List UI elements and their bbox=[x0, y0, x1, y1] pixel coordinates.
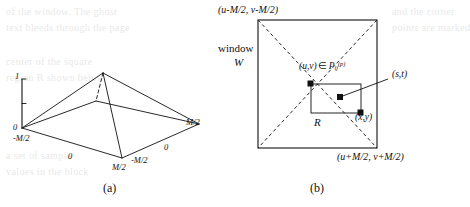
set-symbol-superscript: (p) bbox=[338, 60, 345, 67]
point-label-uv: (u,v)∈Pij(p) bbox=[299, 61, 345, 71]
pyramid-edge-apex-left bbox=[22, 73, 103, 128]
rect-label-R: R bbox=[314, 117, 321, 128]
panel-a-pyramid bbox=[22, 73, 199, 158]
marker-st bbox=[337, 94, 343, 100]
window-label: window bbox=[218, 43, 253, 54]
inner-rectangle-R bbox=[311, 84, 361, 113]
tick-left-front: -M/2 bbox=[13, 134, 30, 143]
corner-label-bottom-right: (u+M/2, v+M/2) bbox=[337, 152, 404, 162]
pyramid-edge-apex-right bbox=[103, 73, 199, 124]
axis-label-one: 1 bbox=[15, 72, 19, 81]
tick-front-mid: 0 bbox=[68, 152, 72, 161]
corner-label-top-left: (u-M/2, v-M/2) bbox=[218, 5, 278, 15]
leader-line-st bbox=[340, 79, 388, 97]
base-edge-front-right bbox=[122, 124, 199, 158]
point-label-uv-text: (u,v) bbox=[299, 61, 317, 71]
tick-right-far: M/2 bbox=[186, 118, 200, 127]
base-edge-back-left bbox=[22, 101, 96, 128]
caption-b: (b) bbox=[310, 182, 324, 194]
point-label-st: (s,t) bbox=[392, 70, 407, 80]
pyramid-edge-apex-front bbox=[103, 73, 122, 158]
panel-b-window bbox=[258, 20, 388, 148]
marker-uv bbox=[308, 81, 314, 87]
point-label-xy: (x,y) bbox=[355, 113, 372, 123]
tick-right-mid: 0 bbox=[164, 143, 168, 152]
tick-right-near: -M/2 bbox=[131, 156, 148, 165]
window-label-w: W bbox=[234, 57, 243, 68]
tick-front-right: M/2 bbox=[112, 163, 126, 172]
axis-label-zero: 0 bbox=[13, 123, 17, 132]
membership-symbol: ∈ bbox=[318, 61, 327, 71]
caption-a: (a) bbox=[103, 182, 116, 194]
